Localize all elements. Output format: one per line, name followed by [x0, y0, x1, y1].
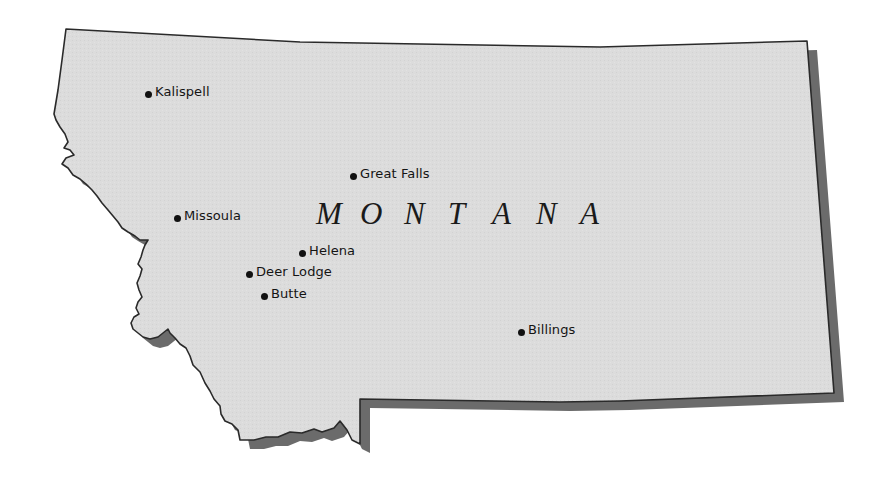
city-dot-icon	[350, 173, 357, 180]
city-label: Deer Lodge	[256, 264, 332, 279]
state-title-letter: N	[404, 196, 448, 232]
city-label: Billings	[528, 322, 575, 337]
state-title-letter: A	[492, 196, 536, 232]
city-butte: Butte	[261, 286, 307, 301]
state-title-letter: A	[580, 196, 624, 232]
city-billings: Billings	[518, 322, 575, 337]
state-title-letter: M	[316, 196, 360, 232]
city-label: Great Falls	[360, 166, 430, 181]
city-label: Butte	[271, 286, 307, 301]
city-dot-icon	[145, 91, 152, 98]
state-title: MONTANA	[316, 196, 624, 232]
state-title-letter: O	[360, 196, 404, 232]
city-label: Missoula	[184, 208, 241, 223]
city-deer-lodge: Deer Lodge	[246, 264, 332, 279]
city-label: Helena	[309, 243, 355, 258]
montana-map: MONTANA Kalispell Great Falls Missoula H…	[0, 0, 884, 483]
city-dot-icon	[518, 329, 525, 336]
city-great-falls: Great Falls	[350, 166, 430, 181]
state-title-letter: T	[448, 196, 492, 232]
city-label: Kalispell	[155, 84, 210, 99]
city-dot-icon	[174, 215, 181, 222]
city-dot-icon	[299, 250, 306, 257]
city-kalispell: Kalispell	[145, 84, 210, 99]
city-helena: Helena	[299, 243, 355, 258]
state-title-letter: N	[536, 196, 580, 232]
city-missoula: Missoula	[174, 208, 241, 223]
state-outline-graphic	[0, 0, 884, 483]
city-dot-icon	[261, 293, 268, 300]
city-dot-icon	[246, 271, 253, 278]
